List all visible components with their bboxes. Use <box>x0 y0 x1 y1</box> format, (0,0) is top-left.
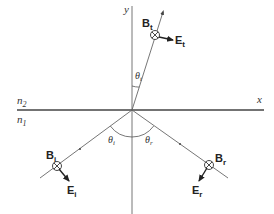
svg-text:θi: θi <box>108 134 115 147</box>
svg-text:Bi: Bi <box>46 149 56 164</box>
x-axis-label: x <box>256 93 262 105</box>
svg-text:Br: Br <box>215 152 226 167</box>
theta-i-arc <box>110 126 132 137</box>
reflection-refraction-diagram: y x n2 n1 θt Bt Et θi θr Bi <box>0 0 274 214</box>
e-i-arrow <box>59 169 69 181</box>
medium-n1-label: n1 <box>17 113 27 128</box>
theta-r-arc <box>132 126 154 137</box>
b-i-label: Bi <box>46 149 56 164</box>
svg-text:Et: Et <box>175 34 185 49</box>
e-r-label: Er <box>192 184 202 199</box>
theta-i-label: θi <box>108 134 115 147</box>
svg-text:θt: θt <box>135 70 143 83</box>
b-t-label: Bt <box>142 17 153 32</box>
e-t-label: Et <box>175 34 185 49</box>
svg-text:Ei: Ei <box>67 184 77 199</box>
theta-t-arc <box>132 86 139 87</box>
reflected-direction-dot <box>179 143 181 145</box>
b-r-into-page-icon <box>205 161 214 170</box>
incident-direction-dot <box>79 148 81 150</box>
svg-text:θr: θr <box>145 134 153 147</box>
b-r-label: Br <box>215 152 226 167</box>
e-t-arrow <box>159 37 173 40</box>
medium-n2-label: n2 <box>17 94 27 109</box>
svg-text:n2: n2 <box>17 94 27 109</box>
svg-text:Bt: Bt <box>142 17 153 32</box>
e-r-arrow <box>199 168 207 181</box>
svg-text:n1: n1 <box>17 113 27 128</box>
theta-r-label: θr <box>145 134 153 147</box>
theta-t-label: θt <box>135 70 143 83</box>
svg-text:Er: Er <box>192 184 202 199</box>
y-axis-label: y <box>123 3 129 15</box>
e-i-label: Ei <box>67 184 77 199</box>
